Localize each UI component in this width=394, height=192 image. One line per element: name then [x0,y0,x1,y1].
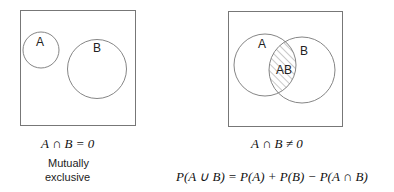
union-formula: P(A ∪ B) = P(A) + P(B) − P(A ∩ B) [175,169,368,184]
left-venn-diagram: A B A ∩ B = 0 Mutually exclusive [21,11,136,184]
intersection-label: AB [276,63,292,77]
venn-diagrams: A B A ∩ B = 0 Mutually exclusive A B AB … [0,0,394,192]
left-label-b: B [93,41,101,55]
left-caption-line1: Mutually [48,157,89,169]
right-venn-diagram: A B AB A ∩ B ≠ 0 [229,12,343,152]
right-label-a: A [258,37,266,51]
left-label-a: A [36,35,44,49]
left-caption-line2: exclusive [45,171,90,183]
right-label-b: B [300,44,308,58]
left-equation: A ∩ B = 0 [40,136,95,151]
right-equation: A ∩ B ≠ 0 [250,136,303,151]
